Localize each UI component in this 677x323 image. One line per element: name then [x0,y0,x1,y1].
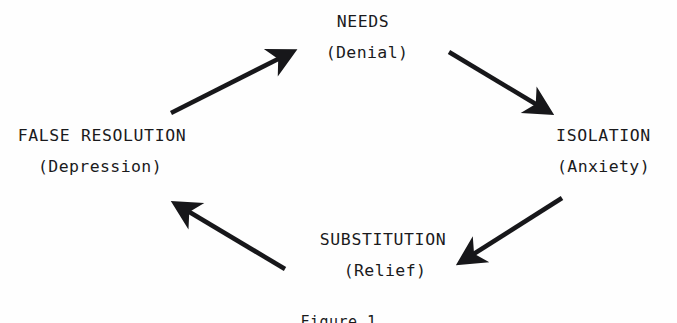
node-needs-secondary-label: (Denial) [296,45,438,62]
node-false-resolution-primary-label: FALSE RESOLUTION [2,128,202,145]
node-isolation: ISOLATION (Anxiety) [530,128,677,175]
node-isolation-primary-label: ISOLATION [530,128,677,145]
node-isolation-secondary-label: (Anxiety) [530,159,677,176]
figure-canvas: NEEDS (Denial) ISOLATION (Anxiety) SUBST… [0,0,677,323]
arrow-substitution-to-false-resolution [176,204,285,269]
node-false-resolution: FALSE RESOLUTION (Depression) [2,128,202,175]
node-substitution: SUBSTITUTION (Relief) [288,232,478,279]
node-needs: NEEDS (Denial) [288,14,438,61]
node-substitution-primary-label: SUBSTITUTION [288,232,478,249]
node-needs-primary-label: NEEDS [288,14,438,31]
arrow-false-resolution-to-needs [171,52,292,113]
node-false-resolution-secondary-label: (Depression) [0,159,202,176]
figure-caption: Figure 1 [0,313,677,323]
node-substitution-secondary-label: (Relief) [292,263,478,280]
arrow-needs-to-isolation [449,52,549,112]
